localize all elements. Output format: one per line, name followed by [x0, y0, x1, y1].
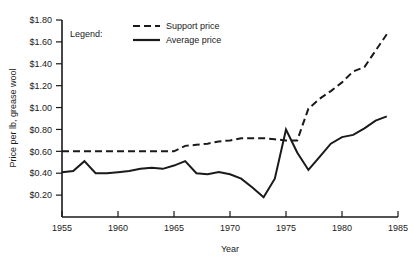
y-tick-label: $1.80	[29, 15, 52, 25]
y-tick-label: $1.00	[29, 103, 52, 113]
y-tick-label: $1.60	[29, 37, 52, 47]
x-tick-label: 1965	[164, 223, 184, 233]
x-tick-label: 1960	[108, 223, 128, 233]
x-tick-label: 1970	[220, 223, 240, 233]
wool-price-line-chart: $0.20$0.40$0.60$0.80$1.00$1.20$1.40$1.60…	[0, 0, 417, 272]
y-tick-label: $0.40	[29, 168, 52, 178]
x-tick-label: 1980	[332, 223, 352, 233]
x-tick-label: 1955	[52, 223, 72, 233]
x-axis-title: Year	[221, 244, 239, 254]
legend-label-average-price: Average price	[166, 35, 221, 45]
legend-label-support-price: Support price	[166, 21, 220, 31]
x-tick-label: 1985	[388, 223, 408, 233]
chart-container: $0.20$0.40$0.60$0.80$1.00$1.20$1.40$1.60…	[0, 0, 417, 272]
y-tick-label: $0.80	[29, 125, 52, 135]
y-tick-label: $0.60	[29, 147, 52, 157]
y-axis-title: Price per lb, grease wool	[8, 68, 18, 167]
x-tick-label: 1975	[276, 223, 296, 233]
y-tick-label: $0.20	[29, 190, 52, 200]
y-tick-label: $1.20	[29, 81, 52, 91]
y-tick-label: $1.40	[29, 59, 52, 69]
legend-title: Legend:	[70, 29, 103, 39]
